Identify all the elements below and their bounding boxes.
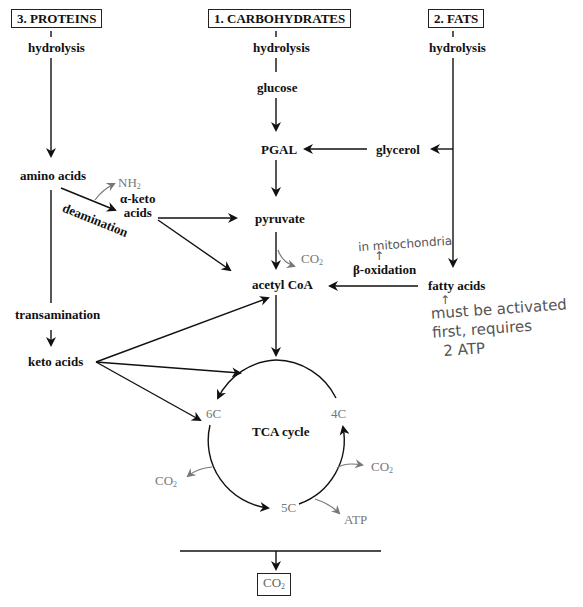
beta-oxidation-label: β-oxidation — [353, 262, 416, 277]
handwritten-activation-note: must be activated first, requires 2 ATP — [430, 295, 570, 361]
pyruvate-co2-label: CO2 — [301, 251, 323, 270]
fatty-acids-label: fatty acids — [428, 278, 485, 293]
tca-co2-right-label: CO2 — [371, 459, 393, 478]
alpha-keto-acids-label: α-ketoacids — [120, 192, 155, 220]
source-box-carbohydrates: 1. CARBOHYDRATES — [208, 9, 351, 28]
pgal-label: PGAL — [261, 142, 297, 157]
tca-co2-left-label: CO2 — [155, 473, 177, 492]
proteins-hydrolysis-label: hydrolysis — [28, 40, 85, 55]
carbohydrates-hydrolysis-label: hydrolysis — [253, 40, 310, 55]
tca-6c-label: 6C — [206, 406, 221, 421]
keto-acids-label: keto acids — [28, 354, 83, 369]
pyruvate-label: pyruvate — [255, 211, 305, 226]
handwritten-arrow-beta: ↑ — [374, 249, 384, 263]
amino-acids-label: amino acids — [20, 168, 86, 183]
tca-5c-label: 5C — [281, 500, 296, 515]
transamination-label: transamination — [15, 307, 100, 322]
acetyl-coa-label: acetyl CoA — [252, 277, 313, 292]
tca-4c-label: 4C — [331, 406, 346, 421]
source-box-fats: 2. FATS — [428, 9, 484, 28]
glycerol-label: glycerol — [376, 142, 420, 157]
tca-cycle-label: TCA cycle — [252, 424, 309, 439]
fats-hydrolysis-label: hydrolysis — [429, 40, 486, 55]
source-box-proteins: 3. PROTEINS — [11, 9, 102, 28]
faded-caption — [200, 592, 360, 602]
tca-atp-label: ATP — [344, 512, 367, 527]
glucose-label: glucose — [257, 80, 297, 95]
